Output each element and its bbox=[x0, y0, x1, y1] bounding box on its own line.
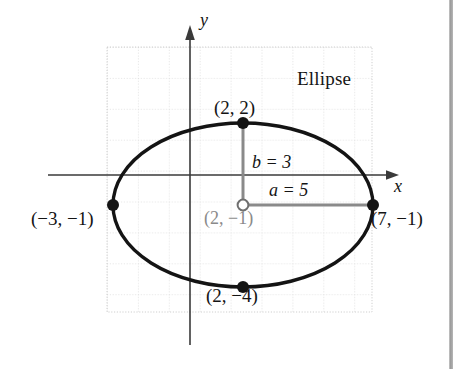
a-measure-label: a = 5 bbox=[269, 180, 308, 201]
point-label-top: (2, 2) bbox=[214, 97, 255, 119]
page-edge-bar bbox=[449, 0, 453, 369]
ellipse-plot-canvas bbox=[0, 0, 462, 369]
point-label-right: (7, −1) bbox=[371, 208, 423, 230]
point-label-left: (−3, −1) bbox=[31, 208, 94, 230]
point-label-bottom: (2, −4) bbox=[206, 285, 258, 307]
point-left bbox=[107, 199, 119, 211]
center-label: (2, −1) bbox=[204, 208, 253, 229]
ellipse-figure: Ellipse (2, 2) (2, −4) (−3, −1) (7, −1) … bbox=[0, 0, 462, 369]
x-axis-label: x bbox=[394, 176, 402, 197]
b-measure-label: b = 3 bbox=[252, 152, 291, 173]
y-axis-label: y bbox=[200, 10, 208, 31]
figure-title-label: Ellipse bbox=[297, 68, 351, 90]
